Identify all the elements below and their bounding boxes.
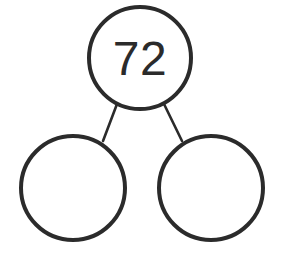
number-bond-diagram: 72 <box>0 0 287 259</box>
part-circle-right[interactable] <box>159 136 263 240</box>
part-circle-left[interactable] <box>21 136 125 240</box>
whole-value-label: 72 <box>113 32 167 85</box>
connector-line-right <box>164 104 182 141</box>
connector-line-left <box>103 104 117 141</box>
number-bond-canvas: 72 <box>0 0 287 259</box>
